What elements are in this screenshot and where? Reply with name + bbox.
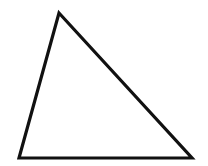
figure-canvas <box>0 0 208 166</box>
triangle-shape <box>19 13 192 158</box>
triangle-figure <box>0 0 208 166</box>
